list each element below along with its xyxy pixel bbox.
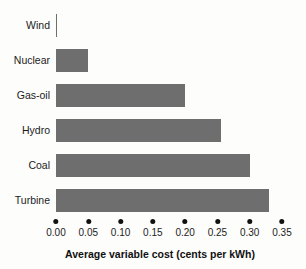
- bar-row: [56, 119, 282, 142]
- x-axis-tick-label: 0.10: [111, 227, 130, 238]
- x-axis-tick: 0.05: [79, 219, 98, 238]
- category-label-coal: Coal: [0, 154, 50, 177]
- x-axis-tick-label: 0.30: [240, 227, 259, 238]
- category-label-turbine: Turbine: [0, 189, 50, 212]
- bar-chart: Wind Nuclear Gas-oil Hydro Coal Turbine …: [0, 0, 306, 269]
- x-axis-tick-label: 0.15: [143, 227, 162, 238]
- tick-dot-icon: [183, 219, 188, 224]
- bar-gas-oil: [56, 84, 185, 107]
- tick-dot-icon: [150, 219, 155, 224]
- x-axis-tick: 0.20: [175, 219, 194, 238]
- x-axis-tick: 0.10: [111, 219, 130, 238]
- x-axis-tick: 0.25: [208, 219, 227, 238]
- bar-row: [56, 14, 282, 37]
- x-axis-ticks: 0.000.050.100.150.200.250.300.35: [56, 219, 282, 229]
- tick-dot-icon: [280, 219, 285, 224]
- x-axis-tick-label: 0.25: [208, 227, 227, 238]
- bar-row: [56, 189, 282, 212]
- x-axis-tick-label: 0.05: [79, 227, 98, 238]
- bar-hydro: [56, 119, 221, 142]
- tick-dot-icon: [247, 219, 252, 224]
- bar-row: [56, 84, 282, 107]
- x-axis-tick-label: 0.35: [272, 227, 291, 238]
- x-axis-tick: 0.15: [143, 219, 162, 238]
- plot-area: [56, 14, 282, 212]
- category-label-wind: Wind: [0, 14, 50, 37]
- x-axis-tick-label: 0.00: [46, 227, 65, 238]
- bar-row: [56, 154, 282, 177]
- x-axis-title: Average variable cost (cents per kWh): [0, 248, 306, 260]
- bar-turbine: [56, 189, 269, 212]
- bar-series: [56, 14, 282, 212]
- bar-nuclear: [56, 49, 88, 72]
- category-label-nuclear: Nuclear: [0, 49, 50, 72]
- bar-row: [56, 49, 282, 72]
- tick-dot-icon: [86, 219, 91, 224]
- category-label-hydro: Hydro: [0, 119, 50, 142]
- tick-dot-icon: [118, 219, 123, 224]
- category-axis-labels: Wind Nuclear Gas-oil Hydro Coal Turbine: [0, 14, 50, 212]
- bar-coal: [56, 154, 250, 177]
- x-axis-tick: 0.35: [272, 219, 291, 238]
- bar-wind: [56, 14, 57, 37]
- tick-dot-icon: [54, 219, 59, 224]
- x-axis-tick: 0.00: [46, 219, 65, 238]
- x-axis-tick-label: 0.20: [175, 227, 194, 238]
- tick-dot-icon: [215, 219, 220, 224]
- x-axis-tick: 0.30: [240, 219, 259, 238]
- category-label-gas-oil: Gas-oil: [0, 84, 50, 107]
